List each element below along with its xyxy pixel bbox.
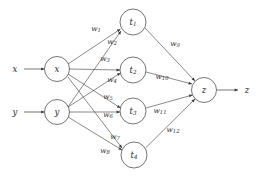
- edge-x-t1: [68, 29, 121, 64]
- weight-label-w1: w1: [91, 24, 101, 34]
- weight-label-w12: w12: [166, 125, 180, 135]
- edge-arrowhead-x-t2: [117, 68, 120, 71]
- weight-label-w6: w6: [103, 110, 113, 120]
- edge-arrowhead-x-t4: [119, 144, 122, 148]
- hidden-node-t2-label: t2: [130, 65, 137, 75]
- input-label-y: y: [12, 107, 18, 117]
- node-group: [45, 9, 217, 168]
- input-node-y-label: y: [54, 107, 60, 117]
- weight-label-w4: w4: [107, 75, 117, 85]
- hidden-node-t4-label: t4: [131, 150, 138, 160]
- weight-label-w5: w5: [103, 92, 113, 102]
- output-label-z: z: [244, 85, 250, 95]
- edge-t1-z: [145, 28, 195, 81]
- edge-arrowhead-y-t3: [117, 111, 120, 114]
- weight-label-w3: w3: [100, 54, 110, 64]
- weight-label-w10: w10: [155, 72, 169, 82]
- input-arrowhead-y: [41, 111, 44, 114]
- input-arrowhead-x: [41, 68, 44, 71]
- weight-label-w8: w8: [100, 146, 110, 156]
- edge-t2-z: [146, 72, 192, 84]
- input-node-x-label: x: [55, 64, 60, 74]
- label-group: xyw1w2w3w4w5w6w7w8w9w10w11w12xyt1t2t3t4z…: [12, 17, 250, 160]
- edge-arrowhead-x-t3: [117, 105, 121, 108]
- weight-label-w11: w11: [153, 106, 166, 116]
- hidden-node-t3-label: t3: [130, 106, 137, 116]
- hidden-node-t1-label: t1: [130, 17, 137, 27]
- output-arrowhead: [235, 89, 238, 92]
- output-node-z-label: z: [201, 85, 207, 95]
- network-canvas: xyw1w2w3w4w5w6w7w8w9w10w11w12xyt1t2t3t4z…: [0, 0, 258, 177]
- edge-arrowhead-y-t2: [117, 73, 121, 76]
- weight-label-w7: w7: [110, 132, 120, 142]
- input-label-x: x: [13, 64, 18, 74]
- neural-network-diagram: xyw1w2w3w4w5w6w7w8w9w10w11w12xyt1t2t3t4z…: [0, 0, 258, 177]
- weight-label-w9: w9: [170, 39, 180, 49]
